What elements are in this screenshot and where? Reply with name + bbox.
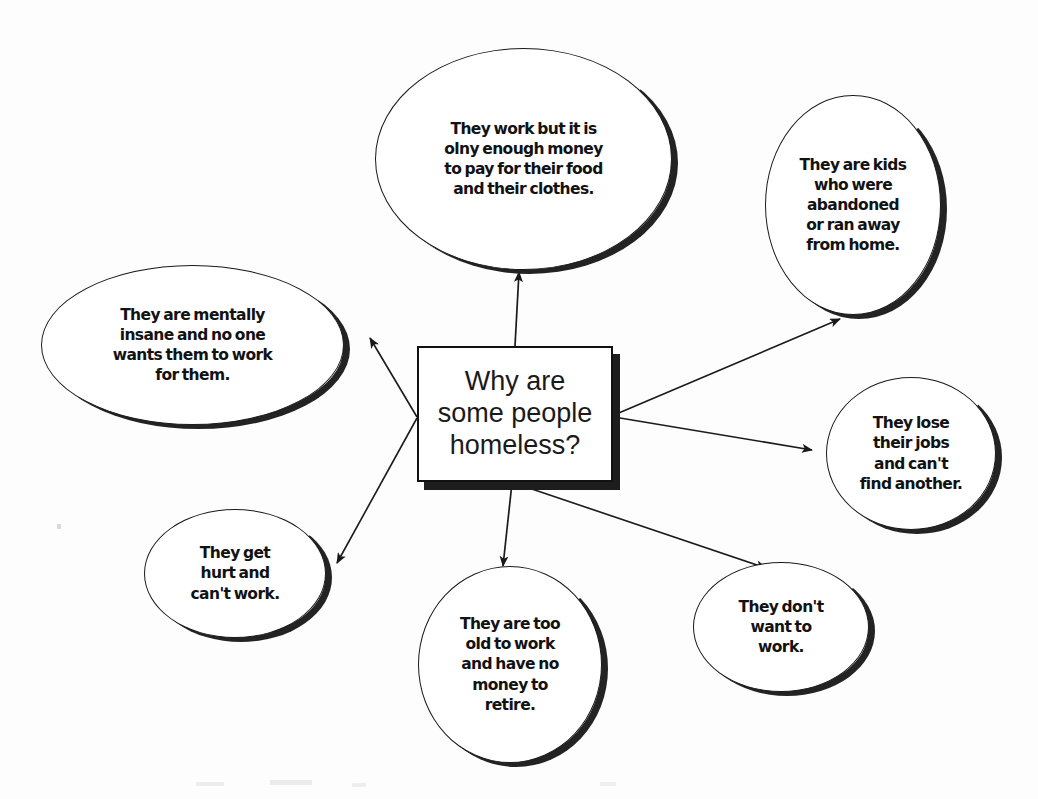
center-topic-label: Why are some people homeless?: [438, 366, 593, 462]
bubble-label-lose-jobs: They lose their jobs and can't find anot…: [854, 413, 969, 494]
bubble-abandoned-kids[interactable]: They are kids who were abandoned or ran …: [765, 95, 941, 315]
bubble-lose-jobs[interactable]: They lose their jobs and can't find anot…: [826, 377, 996, 530]
bubble-work-low-pay[interactable]: They work but it is olny enough money to…: [375, 48, 672, 270]
bubble-too-old[interactable]: They are too old to work and have no mon…: [418, 566, 602, 763]
connector-to-abandoned-kids: [614, 319, 840, 415]
bubble-label-mentally-insane: They are mentally insane and no one want…: [107, 305, 278, 386]
bubble-label-work-low-pay: They work but it is olny enough money to…: [438, 119, 609, 200]
connector-to-mentally-insane: [370, 338, 417, 417]
connector-to-too-old: [503, 483, 512, 566]
bubble-dont-want-work[interactable]: They don't want to work.: [693, 562, 869, 692]
bubble-label-too-old: They are too old to work and have no mon…: [454, 614, 566, 715]
connector-to-dont-want-work: [517, 484, 766, 568]
connector-to-work-low-pay: [515, 272, 519, 346]
center-topic-box[interactable]: Why are some people homeless?: [417, 346, 613, 482]
bubble-mentally-insane[interactable]: They are mentally insane and no one want…: [41, 265, 344, 425]
mind-map-canvas: They work but it is olny enough money to…: [0, 0, 1038, 799]
bubble-label-dont-want-work: They don't want to work.: [732, 597, 829, 657]
bubble-label-abandoned-kids: They are kids who were abandoned or ran …: [794, 155, 913, 256]
bubble-get-hurt[interactable]: They get hurt and can't work.: [144, 509, 326, 638]
connector-to-lose-jobs: [614, 417, 812, 450]
connector-to-get-hurt: [337, 418, 417, 563]
bubble-label-get-hurt: They get hurt and can't work.: [185, 543, 286, 603]
